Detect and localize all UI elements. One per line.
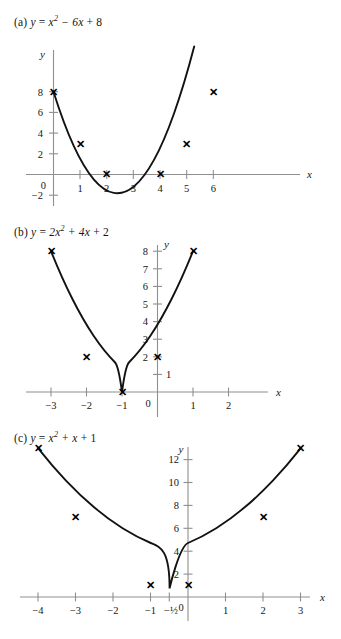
x-ticklabel-c-zero: 0 xyxy=(178,602,183,613)
x-ticklabel-c-0: −4 xyxy=(32,605,44,616)
y-ticklabel-b-1: 1 xyxy=(166,369,171,380)
x-ticklabel-c-6: 2 xyxy=(260,605,265,616)
x-ticklabel-b-1: −2 xyxy=(81,400,92,411)
data-point-marker: ✕ xyxy=(118,386,127,398)
x-ticklabel-b-4: 1 xyxy=(190,400,195,411)
svg-chart-b-content: −3 −2 −1 0 1 2 1 2 3 4 5 6 xyxy=(0,215,341,425)
data-point-marker: ✕ xyxy=(209,86,218,98)
y-ticklabel-c-10: 10 xyxy=(169,477,180,488)
data-point-marker: ✕ xyxy=(189,245,198,257)
y-axis-label-b: y xyxy=(163,238,169,250)
data-point-marker: ✕ xyxy=(82,351,91,363)
x-ticklabel-c-3: −1 xyxy=(145,605,156,616)
chart-panel-c: (c) y = x2 + x + 1 − xyxy=(0,425,341,639)
x-ticklabel-b-0: −3 xyxy=(45,400,56,411)
data-point-marker: ✕ xyxy=(156,168,165,180)
x-ticklabel-c-4: −½ xyxy=(164,605,178,616)
y-ticklabel-a-8: 8 xyxy=(38,87,43,98)
plot-area-b: −3 −2 −1 0 1 2 1 2 3 4 5 6 xyxy=(0,215,341,425)
y-ticklabel-b-2: 2 xyxy=(143,352,148,363)
y-ticklabel-a-6: 6 xyxy=(38,107,43,118)
data-point-marker: ✕ xyxy=(259,511,268,523)
y-ticklabel-b-8: 8 xyxy=(143,246,148,257)
x-axis-label-a: x xyxy=(306,168,312,180)
data-point-marker: ✕ xyxy=(153,351,162,363)
x-ticklabel-b-3: 0 xyxy=(145,398,150,409)
y-ticklabel-b-5: 5 xyxy=(143,299,148,310)
chart-panel-a: (a) y = x2 − 6x + 8 xyxy=(0,0,341,215)
data-point-marker: ✕ xyxy=(76,138,85,150)
y-ticklabel-b-4: 4 xyxy=(143,316,149,327)
y-ticklabel-b-7: 7 xyxy=(143,264,148,275)
curve-b xyxy=(51,251,193,392)
data-point-marker: ✕ xyxy=(34,442,43,454)
data-point-marker: ✕ xyxy=(184,579,193,591)
svg-chart-c: −4 −3 −2 −1 −½ 0 1 2 3 2 4 6 8 xyxy=(0,425,341,639)
figure-page: (a) y = x2 − 6x + 8 xyxy=(0,0,341,639)
y-ticklabel-a-neg2: −2 xyxy=(32,190,43,201)
y-ticklabel-c-6: 6 xyxy=(174,523,179,534)
svg-chart-a: 1 2 3 4 5 6 8 6 4 2 0 −2 y x xyxy=(0,0,341,215)
y-axis-label-c: y xyxy=(178,443,184,455)
data-point-marker: ✕ xyxy=(182,138,191,150)
chart-panel-b: (b) y = 2x2 + 4x + 2 −3 − xyxy=(0,215,341,425)
x-axis-label-c: x xyxy=(319,591,325,603)
x-ticklabel-c-1: −3 xyxy=(70,605,81,616)
x-ticklabel-a-3: 4 xyxy=(157,183,163,194)
x-ticklabel-c-2: −2 xyxy=(107,605,118,616)
x-ticklabel-a-4: 5 xyxy=(184,183,189,194)
data-point-marker: ✕ xyxy=(102,168,111,180)
y-ticklabel-a-2: 2 xyxy=(38,149,43,160)
y-ticklabel-b-6: 6 xyxy=(143,281,148,292)
y-ticklabel-c-12: 12 xyxy=(169,454,180,465)
x-ticklabel-b-5: 2 xyxy=(226,400,231,411)
x-ticklabel-c-5: 1 xyxy=(223,605,228,616)
plot-area-c: −4 −3 −2 −1 −½ 0 1 2 3 2 4 6 8 xyxy=(0,425,341,639)
y-axis-label-a: y xyxy=(39,48,45,60)
x-ticklabel-a-5: 6 xyxy=(211,183,216,194)
x-ticklabel-c-7: 3 xyxy=(298,605,303,616)
y-ticklabel-a-4: 4 xyxy=(38,128,44,139)
data-point-marker: ✕ xyxy=(49,86,58,98)
x-axis-label-b: x xyxy=(275,386,281,398)
data-point-marker: ✕ xyxy=(47,245,56,257)
y-ticklabel-c-8: 8 xyxy=(174,500,179,511)
data-point-marker: ✕ xyxy=(296,442,305,454)
x-ticklabel-a-0: 1 xyxy=(77,183,82,194)
curve-a xyxy=(54,47,195,194)
x-ticklabel-b-2: −1 xyxy=(116,400,127,411)
data-point-marker: ✕ xyxy=(146,579,155,591)
plot-area-a: 1 2 3 4 5 6 8 6 4 2 0 −2 y x xyxy=(0,0,341,215)
data-point-marker: ✕ xyxy=(71,511,80,523)
